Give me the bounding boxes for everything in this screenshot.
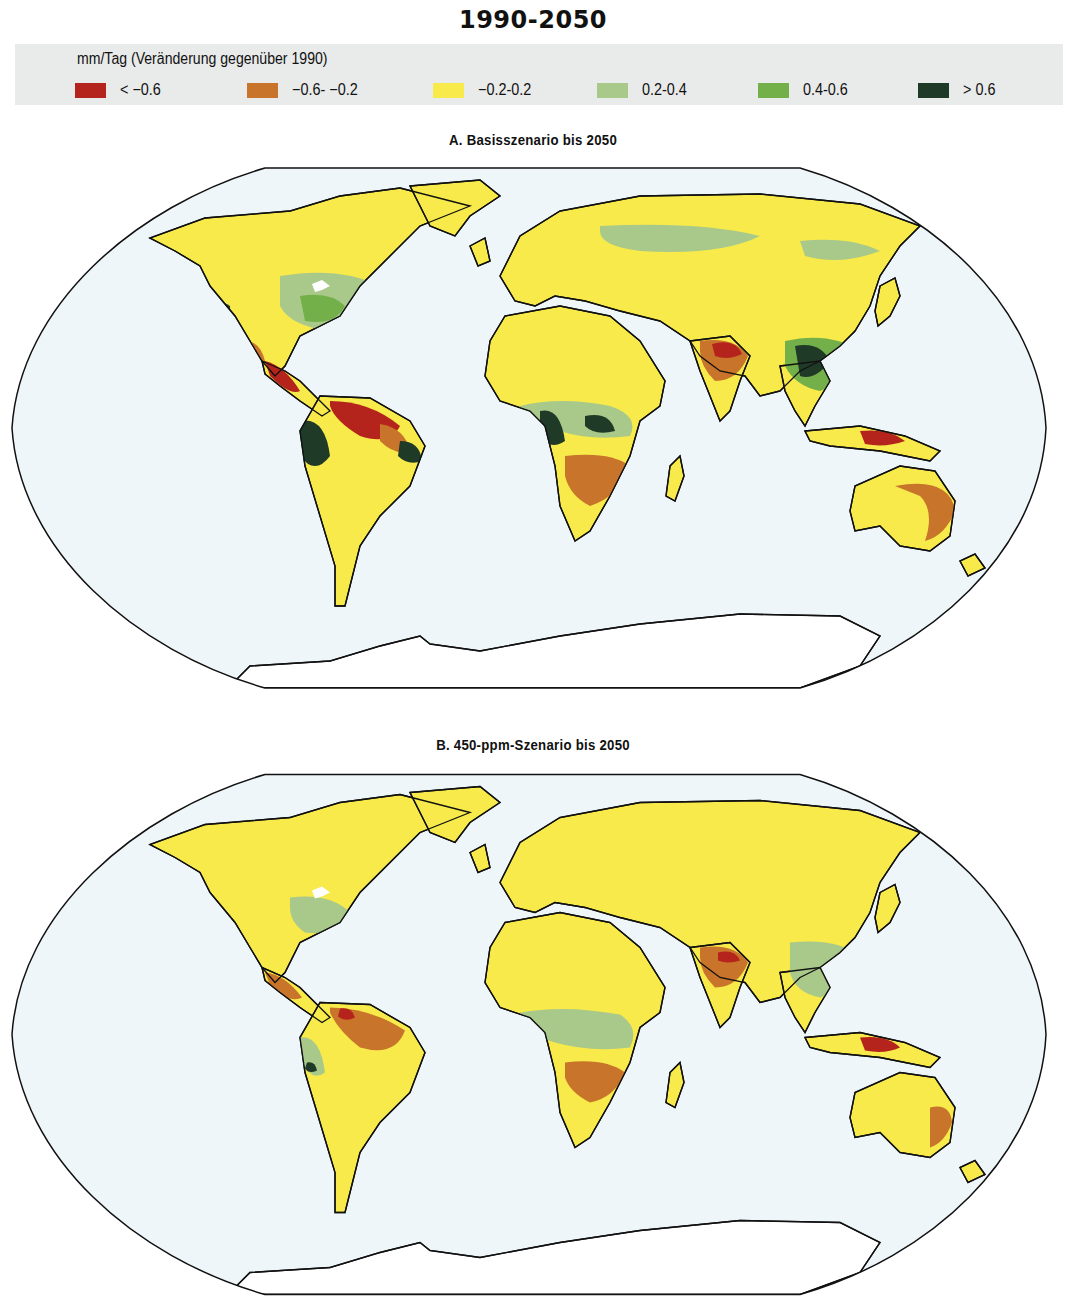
legend-label: 0.4-0.6 [803,81,848,99]
legend-swatch [433,83,464,98]
legend-label: −0.6- −0.2 [292,81,358,99]
legend-label: −0.2-0.2 [478,81,531,99]
legend-item-lt-neg06: < −0.6 [75,81,165,99]
legend-item-04-06: 0.4-0.6 [758,81,853,99]
legend-swatch [75,83,106,98]
legend-item-neg02-02: −0.2-0.2 [433,81,537,99]
legend-item-neg06-neg02: −0.6- −0.2 [247,81,365,99]
legend-item-02-04: 0.2-0.4 [597,81,692,99]
legend-label: 0.2-0.4 [642,81,687,99]
legend-swatch [247,83,278,98]
legend-item-gt-06: > 0.6 [918,81,999,99]
page-title: 1990-2050 [0,6,1066,34]
legend-swatch [597,83,628,98]
panel-title-b: B. 450-ppm-Szenario bis 2050 [64,736,1002,753]
legend-label: > 0.6 [963,81,995,99]
legend-swatch [918,83,949,98]
legend-title: mm/Tag (Veränderung gegenüber 1990) [77,50,327,68]
world-map-a [0,166,1066,692]
world-map-b [0,770,1066,1301]
panel-title-a: A. Basisszenario bis 2050 [64,131,1002,148]
legend-swatch [758,83,789,98]
legend-label: < −0.6 [120,81,161,99]
legend: mm/Tag (Veränderung gegenüber 1990) < −0… [15,44,1063,105]
